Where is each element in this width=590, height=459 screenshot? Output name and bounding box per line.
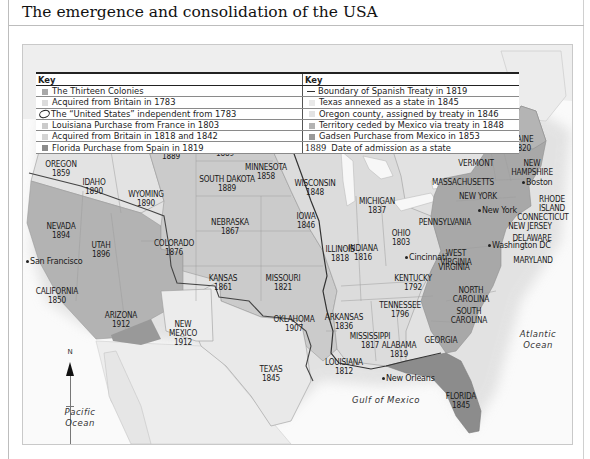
key-item-texas-1845: Texas annexed as a state in 1845: [303, 97, 520, 108]
state-year: 1912: [105, 320, 137, 329]
state-label-iowa: IOWA1846: [296, 212, 315, 230]
state-label-north: NORTHCAROLINA: [453, 286, 489, 304]
city-dot-icon: [488, 244, 491, 247]
state-name: VERMONT: [458, 158, 494, 168]
oval-outline-icon: [38, 109, 51, 120]
state-label-texas: TEXAS1845: [260, 365, 283, 383]
state-label-louisiana: LOUISIANA1812: [325, 358, 363, 376]
state-year: 1845: [260, 374, 283, 383]
city-dot-icon: [26, 260, 29, 263]
state-year: 1816: [348, 253, 378, 262]
key-item-us-independent: The “United States” independent from 178…: [36, 108, 303, 119]
state-label-vermont: VERMONT: [458, 159, 494, 168]
state-label-minnesota: MINNESOTA1858: [245, 163, 287, 181]
state-year: 1848: [294, 188, 335, 197]
state-year: CAROLINA: [453, 295, 489, 304]
state-label-south: SOUTHCAROLINA: [451, 307, 487, 325]
state-name: NEW YORK: [459, 191, 497, 201]
city-label-new-york: New York: [478, 206, 517, 215]
state-label-nebraska: NEBRASKA1867: [211, 218, 249, 236]
state-year: 1907: [273, 324, 314, 333]
water-label-pacific: PacificOcean: [65, 407, 96, 429]
city-dot-icon: [405, 256, 408, 259]
state-name: VIRGINIA: [438, 262, 469, 272]
swatch-icon: [42, 145, 48, 151]
state-label-indiana: INDIANA1816: [348, 244, 378, 262]
key-label: Date of admission as a state: [331, 143, 451, 153]
state-label-virginia: VIRGINIA: [438, 263, 469, 272]
city-label-new-orleans: New Orleans: [382, 374, 435, 383]
state-year: 1889: [199, 184, 255, 193]
state-label-oregon: OREGON1859: [45, 160, 76, 178]
state-name: PENNSYLVANIA: [419, 217, 471, 227]
key-item-britain-1783: Acquired from Britain in 1783: [36, 97, 303, 108]
key-header-right: Key: [303, 74, 520, 86]
state-label-wisconsin: WISCONSIN1848: [294, 179, 335, 197]
city-label-cincinnati: Cincinnati: [405, 253, 447, 262]
city-name: Cincinnati: [409, 253, 447, 262]
city-name: Boston: [526, 178, 552, 187]
state-label-massachusetts: MASSACHUSETTS: [432, 178, 494, 187]
key-label: Acquired from Britain in 1783: [52, 97, 176, 107]
state-label-florida: FLORIDA1845: [446, 392, 476, 410]
state-label-ohio: OHIO1803: [392, 229, 411, 247]
water-label-gulf-of-mexico: Gulf of Mexico: [352, 395, 420, 406]
state-label-nevada: NEVADA1894: [46, 222, 75, 240]
key-label: Gadsen Purchase from Mexico in 1853: [319, 131, 480, 141]
state-year: 1836: [325, 322, 363, 331]
state-year: 1850: [36, 296, 78, 305]
state-label-new-jersey: NEW JERSEY: [508, 222, 552, 231]
state-name: NEW JERSEY: [508, 221, 552, 231]
state-year: 1894: [46, 231, 75, 240]
state-label-idaho: IDAHO1890: [82, 178, 105, 196]
title-divider: [8, 25, 584, 26]
state-year: CAROLINA: [451, 316, 487, 325]
swatch-icon: [309, 134, 315, 140]
city-name: New York: [482, 206, 517, 215]
north-arrow: N: [63, 348, 77, 445]
state-year: 1890: [128, 199, 163, 208]
key-item-spanish-boundary: Boundary of Spanish Treaty in 1819: [303, 86, 520, 97]
key-item-thirteen-colonies: The Thirteen Colonies: [36, 86, 303, 97]
key-item-oregon-1846: Oregon county, assigned by treaty in 184…: [303, 108, 520, 119]
key-item-florida-1819: Florida Purchase from Spain in 1819: [36, 142, 303, 153]
state-year: 1792: [394, 283, 431, 292]
state-year: HAMPSHIRE: [511, 168, 553, 177]
north-label: N: [63, 348, 77, 356]
state-label-arkansas: ARKANSAS1836: [325, 313, 363, 331]
swatch-icon: [309, 123, 315, 129]
key-label: Louisiana Purchase from France in 1803: [52, 120, 219, 130]
key-label: Acquired from Britain in 1818 and 1842: [52, 131, 218, 141]
swatch-icon: [309, 100, 315, 106]
state-year: 1796: [379, 310, 421, 319]
state-year: 1867: [211, 227, 249, 236]
key-item-britain-1818-1842: Acquired from Britain in 1818 and 1842: [36, 131, 303, 142]
state-label-wyoming: WYOMING1890: [128, 190, 163, 208]
key-label: Territory ceded by Mexico via treaty in …: [319, 120, 504, 130]
state-year: 1912: [169, 338, 197, 347]
state-year: 1876: [154, 248, 194, 257]
state-name: MARYLAND: [513, 255, 552, 265]
state-label-tennessee: TENNESSEE1796: [379, 301, 421, 319]
state-label-arizona: ARIZONA1912: [105, 311, 137, 329]
state-year: 1896: [91, 250, 110, 259]
north-arrow-icon: [66, 362, 74, 376]
year-sample: 1889: [305, 143, 326, 153]
state-label-georgia: GEORGIA: [425, 336, 458, 345]
state-label-utah: UTAH1896: [91, 241, 110, 259]
state-year: 1803: [392, 238, 411, 247]
swatch-icon: [42, 134, 48, 140]
state-label-kansas: KANSAS1861: [209, 274, 238, 292]
key-item-admission-date: 1889Date of admission as a state: [303, 142, 520, 153]
state-label-new-york: NEW YORK: [459, 192, 497, 201]
key-label: Florida Purchase from Spain in 1819: [52, 143, 204, 153]
page-title: The emergence and consolidation of the U…: [22, 3, 378, 21]
map-key: Key Key The Thirteen Colonies Boundary o…: [36, 72, 519, 154]
state-year: 1846: [296, 221, 315, 230]
swatch-icon: [309, 111, 315, 117]
key-label: Texas annexed as a state in 1845: [319, 97, 459, 107]
state-year: 1859: [45, 169, 76, 178]
city-dot-icon: [522, 181, 525, 184]
state-year: 1845: [446, 401, 476, 410]
state-year: 1858: [245, 172, 287, 181]
